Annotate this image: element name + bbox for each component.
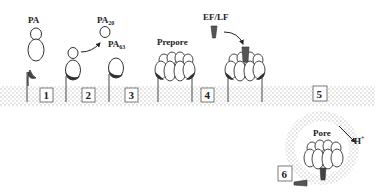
pa20-label: PA20	[97, 15, 114, 26]
prepore-label: Prepore	[157, 37, 188, 47]
pore-stem	[320, 168, 326, 180]
step-4-number: 4	[205, 89, 211, 101]
ef-lf-ligand	[211, 26, 217, 38]
pa20-released	[100, 27, 110, 38]
step-3-number: 3	[129, 89, 135, 101]
pa-label: PA	[28, 15, 40, 25]
cleavage-arrow	[81, 43, 100, 52]
pa20-domain	[68, 48, 78, 59]
step-5-number: 5	[317, 88, 323, 100]
pore-heptamer	[304, 140, 343, 169]
step-2-number: 2	[86, 89, 92, 101]
receptor	[28, 70, 36, 86]
pore-label: Pore	[313, 128, 331, 138]
pa63-label: PA63	[108, 39, 125, 50]
pa-pore-formation-diagram: PA 1 PA20 2 PA63 3 Prepore	[0, 0, 390, 194]
binding-arrow	[224, 32, 243, 44]
translocated-ligand	[294, 180, 307, 186]
ef-lf-label: EF/LF	[203, 12, 229, 22]
prepore-heptamer	[155, 52, 195, 81]
step-6-number: 6	[282, 168, 288, 180]
step-1-number: 1	[44, 89, 50, 101]
pa20-domain	[31, 28, 42, 40]
pa63-domain	[28, 39, 44, 61]
proton-label: H+	[354, 135, 365, 146]
